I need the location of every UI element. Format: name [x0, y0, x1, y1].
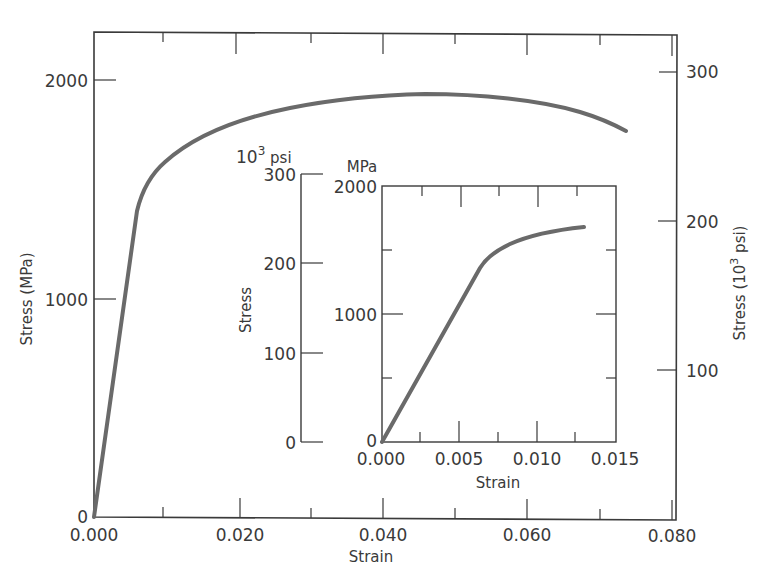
- inset-plot: 300 200 100 0 103 psi Stress: [236, 144, 639, 492]
- y-left-tick-2: 2000: [45, 71, 88, 91]
- main-y-left-axis-title: Stress (MPa): [18, 252, 36, 345]
- main-x-ticks-top: [163, 32, 672, 56]
- psi-tick-300: 300: [264, 165, 296, 185]
- inset-stress-strain-curve: [382, 227, 584, 442]
- y-right-tick-200: 200: [686, 212, 718, 232]
- y-left-tick-0: 0: [77, 507, 88, 527]
- inset-mpa-tick-labels: 2000 1000 0: [334, 177, 377, 451]
- inset-mpa-ticks-left: [382, 250, 403, 378]
- psi-tick-0: 0: [285, 433, 296, 453]
- inset-x-ticks-top: [422, 186, 577, 207]
- inset-plot-frame: [382, 186, 616, 442]
- inset-x-tick-2: 0.010: [513, 449, 562, 469]
- y-left-tick-1: 1000: [45, 290, 88, 310]
- inset-mpa-unit-label: MPa: [347, 158, 378, 176]
- inset-x-ticks-bottom: [420, 421, 575, 442]
- main-y-ticks-right: [657, 72, 677, 370]
- inset-x-axis-title: Strain: [476, 474, 520, 492]
- main-y-left-tick-labels: 0 1000 2000: [45, 71, 88, 527]
- mpa-tick-0: 0: [366, 431, 377, 451]
- main-y-right-tick-labels: 300 200 100: [686, 62, 718, 381]
- inset-psi-axis: [301, 174, 323, 442]
- inset-y-axis-title: Stress: [237, 287, 255, 333]
- stress-strain-figure: 0.000 0.020 0.040 0.060 0.080 Strain 0 1…: [0, 0, 768, 568]
- main-y-ticks-left: [94, 80, 116, 299]
- inset-x-tick-0: 0.000: [357, 449, 406, 469]
- main-x-ticks-bottom: [163, 498, 672, 520]
- inset-psi-unit-label: 103 psi: [236, 144, 292, 167]
- inset-x-tick-1: 0.005: [435, 449, 484, 469]
- x-tick-3: 0.060: [503, 525, 552, 545]
- psi-tick-200: 200: [264, 254, 296, 274]
- main-plot: 0.000 0.020 0.040 0.060 0.080 Strain 0 1…: [18, 32, 749, 566]
- main-x-tick-labels: 0.000 0.020 0.040 0.060 0.080: [70, 525, 697, 546]
- x-tick-4: 0.080: [648, 526, 697, 546]
- inset-mpa-ticks-right: [596, 250, 616, 378]
- x-tick-1: 0.020: [216, 525, 265, 545]
- inset-psi-tick-labels: 300 200 100 0: [264, 165, 296, 453]
- mpa-tick-2000: 2000: [334, 177, 377, 197]
- inset-x-tick-labels: 0.000 0.005 0.010 0.015: [357, 449, 640, 469]
- x-tick-0: 0.000: [70, 525, 119, 545]
- y-right-tick-100: 100: [686, 361, 718, 381]
- mpa-tick-1000: 1000: [334, 305, 377, 325]
- main-y-right-axis-title: Stress (103 psi): [728, 226, 749, 341]
- main-x-axis-title: Strain: [349, 548, 393, 566]
- psi-tick-100: 100: [264, 344, 296, 364]
- main-plot-frame: [94, 32, 677, 520]
- inset-x-tick-3: 0.015: [591, 449, 640, 469]
- x-tick-2: 0.040: [359, 525, 408, 545]
- y-right-tick-300: 300: [686, 62, 718, 82]
